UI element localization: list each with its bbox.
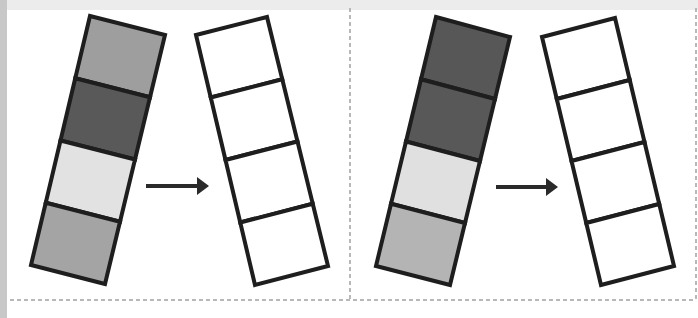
diagram-canvas — [0, 0, 698, 318]
diagram-svg — [0, 0, 698, 318]
left-band — [0, 0, 7, 318]
